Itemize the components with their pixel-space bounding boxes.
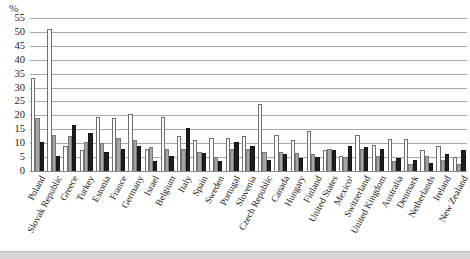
- x-label-anchor-greece: Greece: [63, 172, 76, 252]
- bar-group-belgium: [161, 117, 174, 171]
- bar-united-states-series-3-black: [332, 150, 336, 171]
- y-tick-label-20: 20: [0, 110, 25, 120]
- x-label-anchor-germany: Germany: [128, 172, 141, 252]
- y-tick-label-0: 0: [0, 166, 25, 176]
- bar-group-sweden: [209, 138, 222, 171]
- bar-group-portugal: [226, 138, 239, 171]
- x-axis-category-labels: PolandSlovak RepublicGreeceTurkeyEstonia…: [30, 172, 467, 252]
- bar-group-hungary: [291, 140, 304, 171]
- bar-group-spain: [193, 140, 206, 171]
- x-label-anchor-estonia: Estonia: [96, 172, 109, 252]
- bar-greece-series-3-black: [72, 125, 76, 171]
- x-label-anchor-australia: Australia: [388, 172, 401, 252]
- bar-italy-series-3-black: [186, 128, 190, 171]
- bar-group-canada: [274, 135, 287, 171]
- bar-group-united-states: [323, 149, 336, 171]
- plot-area: [30, 18, 467, 171]
- y-tick-label-15: 15: [0, 124, 25, 134]
- bar-sweden-series-3-black: [218, 161, 222, 171]
- y-tick-label-50: 50: [0, 27, 25, 37]
- bar-group-estonia: [96, 117, 109, 171]
- y-tick-label-55: 55: [0, 13, 25, 23]
- bar-group-slovenia: [242, 136, 255, 171]
- x-label-anchor-spain: Spain: [193, 172, 206, 252]
- bar-ireland-series-3-black: [445, 154, 449, 171]
- x-label-anchor-italy: Italy: [177, 172, 190, 252]
- bar-spain-series-3-black: [202, 153, 206, 171]
- y-tick-label-35: 35: [0, 69, 25, 79]
- x-label-anchor-czech-republic: Czech Republic: [258, 172, 271, 252]
- x-label-anchor-belgium: Belgium: [161, 172, 174, 252]
- bar-turkey-series-3-black: [88, 133, 92, 171]
- x-label-anchor-slovak-republic: Slovak Republic: [47, 172, 60, 252]
- bar-group-netherlands: [420, 150, 433, 171]
- bar-portugal-series-3-black: [234, 142, 238, 171]
- bar-slovenia-series-3-black: [250, 146, 254, 171]
- bar-switzerland-series-3-black: [364, 147, 368, 171]
- bar-australia-series-3-black: [396, 158, 400, 171]
- bar-group-germany: [128, 114, 141, 171]
- bars-container: [30, 18, 467, 171]
- bar-poland-series-3-black: [40, 142, 44, 171]
- y-axis-tick-labels: 0510152025303540455055: [0, 18, 26, 171]
- bar-hungary-series-3-black: [299, 158, 303, 171]
- bar-germany-series-3-black: [137, 146, 141, 171]
- x-label-anchor-france: France: [112, 172, 125, 252]
- x-label-anchor-canada: Canada: [274, 172, 287, 252]
- x-label-anchor-portugal: Portugal: [226, 172, 239, 252]
- x-label-anchor-turkey: Turkey: [80, 172, 93, 252]
- bar-group-mexico: [339, 146, 352, 171]
- bar-group-slovak-republic: [47, 29, 60, 171]
- x-label-anchor-new-zealand: New Zealand: [453, 172, 466, 252]
- y-tick-label-5: 5: [0, 152, 25, 162]
- bar-france-series-3-black: [121, 149, 125, 171]
- bar-united-kingdom-series-3-black: [380, 149, 384, 171]
- bar-group-italy: [177, 128, 190, 171]
- bar-group-finland: [307, 131, 320, 171]
- y-tick-label-45: 45: [0, 41, 25, 51]
- bar-czech-republic-series-3-black: [267, 160, 271, 171]
- bar-group-israel: [145, 147, 158, 171]
- bar-estonia-series-3-black: [104, 152, 108, 171]
- bar-group-ireland: [436, 146, 449, 171]
- y-tick-label-10: 10: [0, 138, 25, 148]
- x-label-anchor-netherlands: Netherlands: [420, 172, 433, 252]
- y-tick-label-25: 25: [0, 96, 25, 106]
- bar-mexico-series-3-black: [348, 146, 352, 171]
- bar-group-denmark: [404, 139, 417, 171]
- bar-belgium-series-3-black: [169, 156, 173, 171]
- bar-slovak-republic-series-3-black: [56, 156, 60, 171]
- bar-group-australia: [388, 139, 401, 171]
- bar-group-united-kingdom: [372, 145, 385, 171]
- y-tick-label-30: 30: [0, 83, 25, 93]
- bar-group-france: [112, 118, 125, 171]
- bar-netherlands-series-3-black: [429, 163, 433, 171]
- bar-new-zealand-series-3-black: [461, 150, 465, 171]
- x-label-anchor-united-states: United States: [323, 172, 336, 252]
- bar-group-turkey: [80, 133, 93, 171]
- x-label-anchor-hungary: Hungary: [291, 172, 304, 252]
- bar-israel-series-3-black: [153, 161, 157, 171]
- bar-group-czech-republic: [258, 104, 271, 171]
- bar-group-new-zealand: [453, 150, 466, 171]
- chart-figure: % 0510152025303540455055 PolandSlovak Re…: [0, 0, 470, 259]
- y-tick-label-40: 40: [0, 55, 25, 65]
- x-label-anchor-united-kingdom: United Kingdom: [372, 172, 385, 252]
- bar-canada-series-3-black: [283, 154, 287, 171]
- x-label-anchor-israel: Israel: [145, 172, 158, 252]
- page-edge-strip: [0, 251, 470, 259]
- x-label-anchor-sweden: Sweden: [209, 172, 222, 252]
- bar-finland-series-3-black: [315, 157, 319, 171]
- bar-group-poland: [31, 78, 44, 171]
- bar-denmark-series-3-black: [413, 160, 417, 171]
- bar-group-greece: [63, 125, 76, 171]
- bar-group-switzerland: [355, 135, 368, 171]
